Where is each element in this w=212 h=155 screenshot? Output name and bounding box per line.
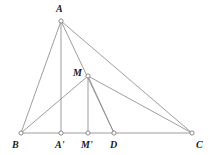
vertex-point-a [59, 19, 63, 23]
vertex-point-d [112, 131, 116, 135]
segment-m-d [88, 76, 114, 133]
vertex-point-b [19, 131, 23, 135]
figure-canvas [0, 0, 212, 155]
point-label-mp: M' [81, 140, 93, 150]
geometry-figure: AMBA'M'DC [0, 0, 212, 155]
segment-m-c [88, 76, 192, 133]
point-label-m: M [73, 68, 82, 78]
point-label-ap: A' [55, 140, 64, 150]
point-label-a: A [56, 4, 63, 14]
point-label-b: B [12, 140, 19, 150]
point-label-c: C [196, 140, 203, 150]
segments-group [21, 21, 192, 133]
vertex-point-m [86, 74, 90, 78]
vertex-point-ap [59, 131, 63, 135]
point-label-d: D [110, 140, 117, 150]
vertex-point-mp [86, 131, 90, 135]
vertex-point-c [190, 131, 194, 135]
